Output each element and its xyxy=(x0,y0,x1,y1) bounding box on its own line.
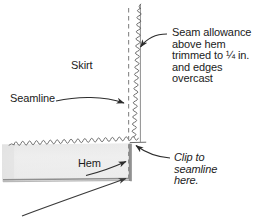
zigzag-overcast-seam-edge xyxy=(132,4,141,142)
label-skirt: Skirt xyxy=(71,60,93,72)
hem-seam-allowance-diagram: Skirt Seamline Hem Seam allowance above … xyxy=(0,0,254,223)
hem-fabric-panel xyxy=(2,144,131,182)
label-seam-allowance: Seam allowance above hem trimmed to ¼ in… xyxy=(172,27,251,85)
label-hem: Hem xyxy=(78,158,101,170)
label-seamline: Seamline xyxy=(10,93,55,105)
curved-arrow-pointing-upleft-to-clip-corner xyxy=(136,146,170,159)
label-clip-to-seamline: Clip to seamline here. xyxy=(174,152,217,187)
long-curved-arrow-from-lower-left-to-hem-fold xyxy=(22,179,126,217)
curved-arrow-pointing-right-to-seamline xyxy=(56,97,124,103)
curved-arrow-pointing-left-to-overcast-edge xyxy=(141,34,168,47)
